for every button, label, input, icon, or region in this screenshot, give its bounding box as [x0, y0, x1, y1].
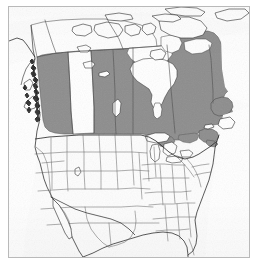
map-figure [0, 0, 261, 269]
lake-erie [166, 156, 183, 163]
map-frame [8, 6, 250, 258]
north-america-map [9, 7, 249, 257]
